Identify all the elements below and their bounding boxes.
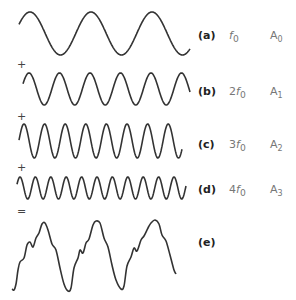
fourth-harmonic-wave [17,177,186,199]
row-label-e: (e) [198,237,216,248]
sum-wave [12,220,176,291]
third-harmonic-wave [19,124,182,158]
equals-operator: = [17,206,26,217]
fundamental-wave [19,12,190,55]
row-label-a: (a) [198,30,215,41]
amplitude-c: A2 [270,139,283,153]
plus-operator: + [17,162,26,173]
waveform-canvas [0,0,296,300]
frequency-c: 3f0 [229,139,246,152]
frequency-d: 4f0 [229,184,246,197]
amplitude-a: A0 [270,30,283,44]
frequency-a: f0 [229,30,239,43]
amplitude-b: A1 [270,86,283,100]
plus-operator: + [17,59,26,70]
amplitude-d: A3 [270,184,283,198]
row-label-b: (b) [198,86,216,97]
frequency-b: 2f0 [229,86,246,99]
row-label-d: (d) [198,184,216,195]
plus-operator: + [17,111,26,122]
second-harmonic-wave [23,73,190,105]
row-label-c: (c) [198,139,215,150]
